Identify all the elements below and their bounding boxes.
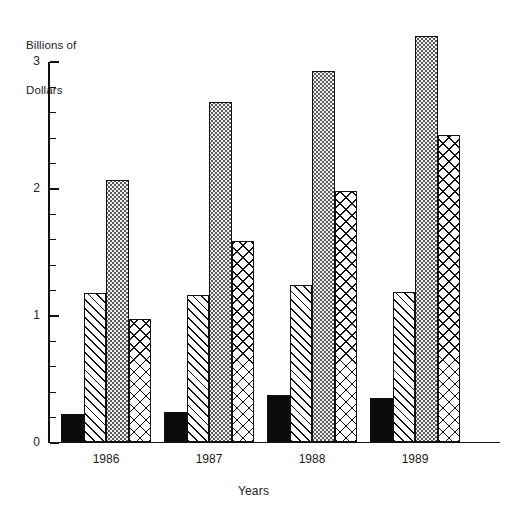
bar-1986-series-1 [61,414,84,442]
x-axis-title: Years [0,484,507,498]
bar-1989-series-4 [438,135,461,442]
x-axis-tick-label-1986: 1986 [93,452,120,466]
bar-1986-series-3 [106,180,129,442]
bar-1987-series-2 [187,295,210,442]
bar-1988-series-4 [335,191,358,442]
y-axis-tick-label: 0 [33,435,40,449]
bar-1989-series-3 [415,36,438,442]
y-axis-tick-label: 3 [33,54,40,68]
bar-1989-series-1 [370,398,393,442]
x-axis-tick-labels: 1986198719881989 [48,452,500,472]
y-axis-major-tick [50,442,59,443]
bar-1987-series-1 [164,412,187,442]
bar-1988-series-3 [312,71,335,442]
x-axis-tick-label-1987: 1987 [196,452,223,466]
x-axis-tick-label-1988: 1988 [299,452,326,466]
y-axis-tick-label: 1 [33,308,40,322]
bar-1986-series-2 [84,293,107,442]
bar-chart: Billions of Dollars 0123 198619871988198… [0,0,507,512]
x-axis-tick-label-1989: 1989 [402,452,429,466]
bar-1986-series-4 [129,319,152,442]
y-axis-tick-label: 2 [33,181,40,195]
bar-1987-series-4 [232,241,255,442]
bar-1987-series-3 [209,102,232,442]
bars-layer [48,56,500,442]
bar-1988-series-2 [290,285,313,442]
y-axis-tick-labels: 0123 [0,56,40,450]
y-axis-title-line-1: Billions of [26,38,76,53]
bar-1989-series-2 [393,292,416,442]
bar-1988-series-1 [267,395,290,442]
